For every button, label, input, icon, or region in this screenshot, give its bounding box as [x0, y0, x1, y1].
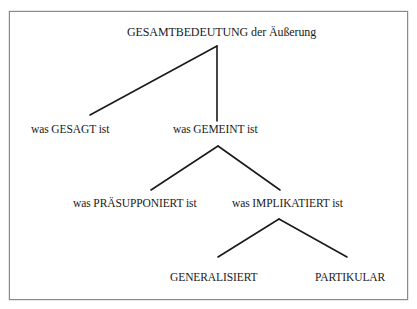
node-presupposed-label: was PRÄSUPPONIERT ist [73, 198, 197, 210]
edge-implicated-generalized [218, 219, 279, 257]
node-implicated-label: was IMPLIKATIERT ist [232, 198, 343, 210]
node-said-label: was GESAGT ist [31, 124, 109, 136]
node-generalized-label: GENERALISIERT [170, 272, 257, 284]
node-particular-label: PARTIKULAR [315, 272, 385, 284]
tree-edges [0, 0, 417, 309]
node-root-label: GESAMTBEDEUTUNG der Äußerung [127, 26, 316, 38]
edge-root-said [90, 46, 217, 115]
edge-meant-presupposed [151, 146, 218, 190]
edge-meant-implicated [218, 146, 280, 190]
node-meant-label: was GEMEINT ist [173, 124, 258, 136]
edge-implicated-particular [279, 219, 347, 257]
